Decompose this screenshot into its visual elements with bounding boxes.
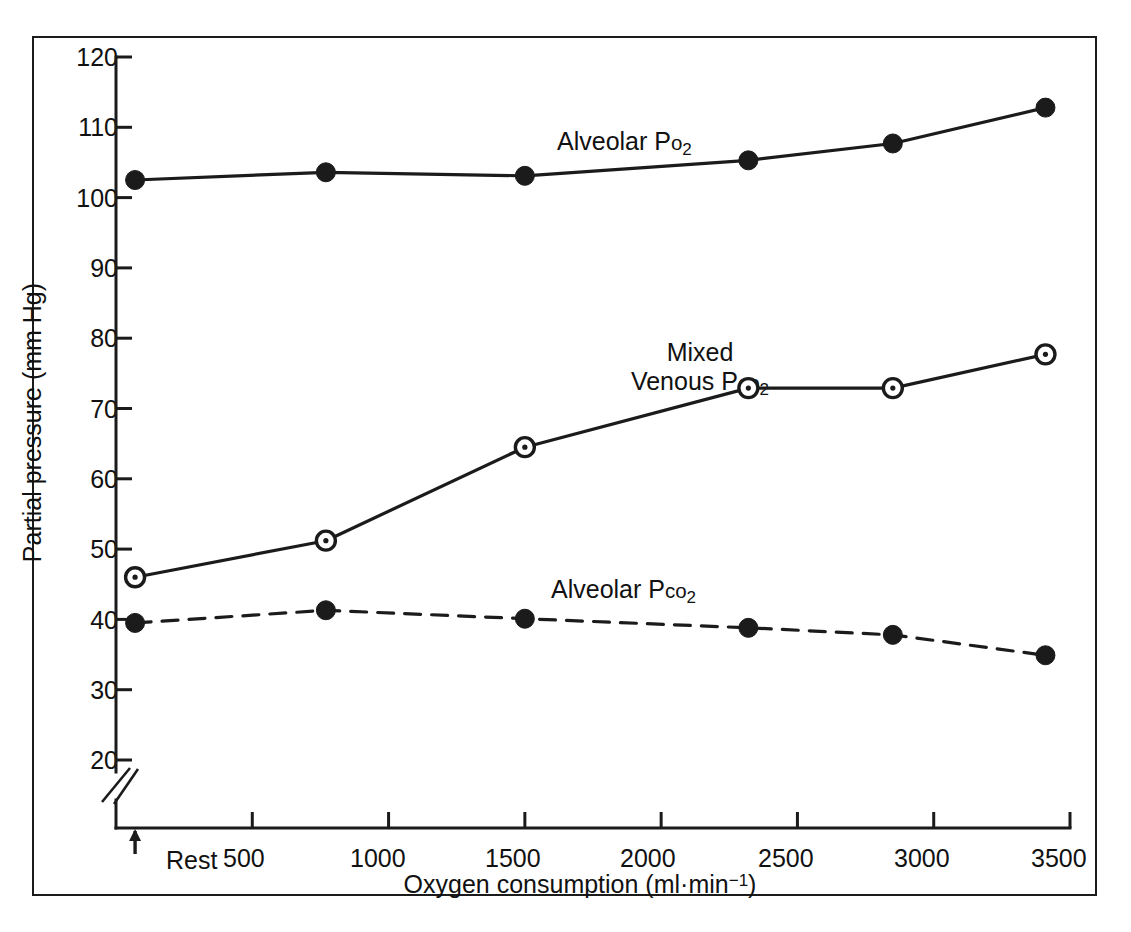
- marker-alveolar-pco2-5: [1036, 646, 1055, 665]
- data-layer: [126, 98, 1055, 665]
- series-line-mixed-venous-pco2: [135, 354, 1045, 577]
- marker-alveolar-pco2-0: [126, 613, 145, 632]
- marker-alveolar-po2-0: [126, 171, 145, 190]
- marker-mixed-venous-pco2-2-center-dot: [522, 445, 527, 450]
- marker-alveolar-po2-2: [515, 166, 534, 185]
- plot-canvas: [0, 0, 1131, 932]
- marker-mixed-venous-pco2-4-center-dot: [890, 386, 895, 391]
- marker-alveolar-po2-3: [739, 151, 758, 170]
- marker-mixed-venous-pco2-5-center-dot: [1043, 352, 1048, 357]
- marker-alveolar-po2-1: [316, 163, 335, 182]
- rest-arrow-head: [129, 829, 141, 841]
- marker-alveolar-pco2-3: [739, 618, 758, 637]
- marker-alveolar-po2-4: [883, 134, 902, 153]
- marker-mixed-venous-pco2-3-center-dot: [746, 386, 751, 391]
- marker-mixed-venous-pco2-1-center-dot: [323, 538, 328, 543]
- series-line-alveolar-po2: [135, 108, 1045, 180]
- figure-root: Partial pressure (mm Hg) Oxygen consumpt…: [0, 0, 1131, 932]
- marker-alveolar-po2-5: [1036, 98, 1055, 117]
- marker-alveolar-pco2-4: [883, 625, 902, 644]
- marker-alveolar-pco2-2: [515, 609, 534, 628]
- marker-alveolar-pco2-1: [316, 601, 335, 620]
- marker-mixed-venous-pco2-0-center-dot: [132, 575, 137, 580]
- series-line-alveolar-pco2: [135, 610, 1045, 655]
